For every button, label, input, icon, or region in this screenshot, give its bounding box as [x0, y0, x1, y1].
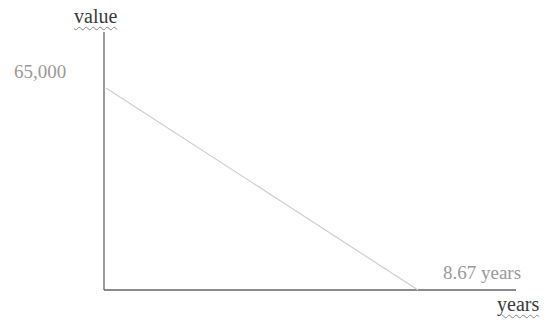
x-axis-label: years [497, 294, 539, 314]
x-intercept-label: 8.67 years [443, 263, 521, 282]
depreciation-line [106, 88, 418, 290]
y-intercept-label: 65,000 [14, 62, 66, 81]
y-axis-label: value [74, 6, 117, 26]
